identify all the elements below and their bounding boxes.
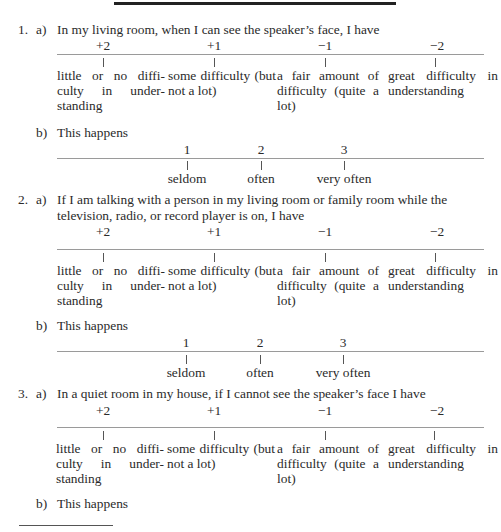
frequency-value: 2 bbox=[258, 142, 265, 158]
scale-value: −2 bbox=[430, 403, 444, 419]
scale-label: great difficulty in understanding bbox=[388, 263, 498, 293]
scale-tick[interactable] bbox=[435, 253, 436, 262]
footnote-rule bbox=[19, 525, 113, 526]
frequency-label: seldom bbox=[168, 171, 207, 187]
scale-tick[interactable] bbox=[435, 58, 436, 67]
scale-value: −1 bbox=[318, 224, 332, 240]
part-b-text: This happens bbox=[57, 496, 128, 512]
scale-line bbox=[57, 54, 484, 55]
scale-value: +1 bbox=[207, 403, 221, 419]
frequency-value: 3 bbox=[340, 335, 347, 351]
scale-tick[interactable] bbox=[103, 58, 104, 67]
scale-label: great difficulty in understanding bbox=[388, 68, 498, 98]
part-b-text: This happens bbox=[57, 318, 128, 334]
part-b-text: This happens bbox=[57, 125, 128, 141]
part-b-marker: b) bbox=[36, 496, 47, 512]
frequency-value: 1 bbox=[184, 142, 191, 158]
part-a-marker: a) bbox=[36, 192, 46, 208]
scale-tick[interactable] bbox=[325, 253, 326, 262]
scale-label: a fair amount of difficulty (quite a lot… bbox=[277, 441, 379, 486]
scale-tick[interactable] bbox=[214, 58, 215, 67]
scale-label: little or no diffi- culty in under- stan… bbox=[57, 68, 165, 113]
scale-label: some difficulty (but not a lot) bbox=[167, 441, 275, 471]
part-b-marker: b) bbox=[36, 318, 47, 334]
frequency-value: 1 bbox=[183, 335, 190, 351]
scale-value: +2 bbox=[96, 38, 110, 54]
frequency-label: very often bbox=[316, 365, 371, 381]
scale-tick[interactable] bbox=[214, 253, 215, 262]
frequency-value: 3 bbox=[341, 142, 348, 158]
part-a-marker: a) bbox=[36, 22, 46, 38]
frequency-label: often bbox=[247, 171, 275, 187]
question-text: If I am talking with a person in my livi… bbox=[57, 192, 447, 208]
scale-tick[interactable] bbox=[434, 431, 435, 440]
scale-value: −1 bbox=[318, 38, 332, 54]
scale-label: a fair amount of difficulty (quite a lot… bbox=[277, 263, 379, 308]
frequency-label: seldom bbox=[167, 365, 206, 381]
part-a-marker: a) bbox=[36, 386, 46, 402]
scale-tick[interactable] bbox=[103, 253, 104, 262]
scale-value: +1 bbox=[207, 38, 221, 54]
frequency-label: often bbox=[246, 365, 274, 381]
item-number: 3. bbox=[18, 386, 28, 402]
top-rule bbox=[114, 2, 396, 5]
scale-tick[interactable] bbox=[103, 431, 104, 440]
scale-value: −1 bbox=[318, 403, 332, 419]
scale-tick[interactable] bbox=[214, 431, 215, 440]
scale-label: little or no diffi- culty in under- stan… bbox=[57, 263, 165, 308]
scale-value: +2 bbox=[96, 224, 110, 240]
scale-label: great difficulty in understanding bbox=[388, 441, 498, 471]
question-text: In my living room, when I can see the sp… bbox=[57, 22, 380, 38]
scale-line bbox=[57, 249, 484, 250]
scale-label: little or no diffi- culty in under- stan… bbox=[56, 441, 164, 486]
frequency-tick[interactable] bbox=[344, 161, 345, 170]
item-number: 2. bbox=[18, 192, 28, 208]
scale-label: some difficulty (but not a lot) bbox=[168, 68, 276, 98]
frequency-tick[interactable] bbox=[343, 355, 344, 364]
scale-label: a fair amount of difficulty (quite a lot… bbox=[277, 68, 379, 113]
scale-tick[interactable] bbox=[325, 431, 326, 440]
frequency-value: 2 bbox=[257, 335, 264, 351]
part-b-marker: b) bbox=[36, 125, 47, 141]
frequency-line bbox=[57, 158, 484, 159]
scale-tick[interactable] bbox=[325, 58, 326, 67]
scale-value: −2 bbox=[430, 38, 444, 54]
frequency-tick[interactable] bbox=[186, 355, 187, 364]
frequency-tick[interactable] bbox=[260, 355, 261, 364]
scale-value: +2 bbox=[96, 403, 110, 419]
frequency-line bbox=[57, 351, 484, 352]
question-text: television, radio, or record player is o… bbox=[57, 208, 304, 224]
frequency-label: very often bbox=[317, 171, 372, 187]
frequency-tick[interactable] bbox=[261, 161, 262, 170]
scale-label: some difficulty (but not a lot) bbox=[168, 263, 276, 293]
scale-line bbox=[57, 427, 484, 428]
scale-value: −2 bbox=[430, 224, 444, 240]
frequency-tick[interactable] bbox=[187, 161, 188, 170]
scale-value: +1 bbox=[207, 224, 221, 240]
item-number: 1. bbox=[18, 22, 28, 38]
question-text: In a quiet room in my house, if I cannot… bbox=[57, 386, 426, 402]
